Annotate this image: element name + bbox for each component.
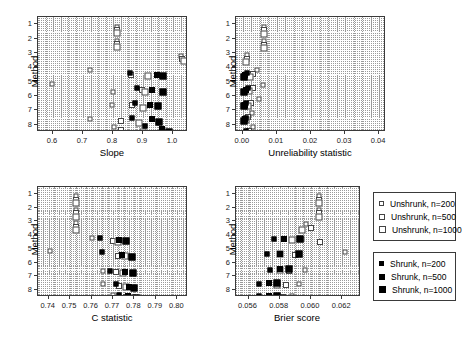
xaxis-label-slope: Slope [100,147,124,158]
yaxis-tickmark [232,289,235,290]
panel-c-statistic: 0.740.750.760.770.780.790.80 12345678 C … [37,186,187,296]
xaxis-tick-label: 0.74 [40,301,55,310]
data-point-unshrunk [141,89,148,96]
data-point-unshrunk [261,82,266,87]
data-point-unshrunk [87,67,92,72]
yaxis-label-unreliability-text: Method [227,42,238,102]
data-point-unshrunk [73,199,80,206]
xaxis-tickmark [172,131,173,134]
legend-item[interactable]: Shrunk, n=200 [379,257,449,270]
data-point-shrunk [286,265,293,272]
xaxis-label-unreliability: Unreliability statistic [268,147,351,158]
xaxis-tick-label: 0.00 [235,136,250,145]
data-point-unshrunk [315,213,322,220]
data-point-shrunk [129,254,136,261]
xaxis-tick-label: 0.01 [269,136,284,145]
yaxis-tickmark [34,275,37,276]
xaxis-tick-label: 0.060 [301,301,320,310]
xaxis-tickmark [279,296,280,299]
yaxis-tick-label: 1 [217,19,230,28]
panel-slope: 0.60.70.80.91.0 12345678 Slope Method [37,16,187,131]
xaxis-tick-label: 0.78 [126,301,141,310]
panel-unreliability: 0.000.010.020.030.04 12345678 Unreliabil… [235,16,385,131]
yaxis-tickmark [232,275,235,276]
data-point-unshrunk [180,58,187,65]
xaxis-tickmark [142,131,143,134]
data-point-shrunk [160,72,167,79]
data-point-unshrunk [289,237,296,244]
yaxis-tickmark [34,207,37,208]
yaxis-tickmark [232,109,235,110]
data-point-unshrunk [315,199,322,206]
data-point-shrunk [257,282,262,287]
data-point-unshrunk [87,117,92,122]
data-point-shrunk [125,293,131,296]
xaxis-tickmark [341,296,342,299]
data-point-unshrunk [283,282,289,288]
legend-item[interactable]: Shrunk, n=500 [379,270,449,283]
legend-item[interactable]: Unshrunk, n=200 [379,197,449,210]
xaxis-tick-label: 0.02 [303,136,318,145]
legend-item[interactable]: Unshrunk, n=500 [379,210,449,223]
xaxis-tickmark [133,296,134,299]
yaxis-tickmark [34,109,37,110]
data-point-unshrunk [243,58,250,65]
data-point-unshrunk [100,268,105,273]
legend-item-label: Shrunk, n=1000 [392,285,452,295]
xaxis-tick-label: 0.04 [371,136,386,145]
data-point-shrunk [155,118,162,125]
legend-item-label: Unshrunk, n=500 [391,212,456,222]
yaxis-label-c-statistic: Method [4,234,64,245]
yaxis-tick-label: 7 [19,105,32,114]
data-point-shrunk [160,89,167,96]
yaxis-tickmark [232,207,235,208]
data-point-unshrunk [260,45,267,52]
data-point-shrunk [277,251,283,257]
xaxis-label-brier-score: Brier score [274,312,320,323]
data-point-shrunk [114,282,119,287]
yaxis-tickmark [232,193,235,194]
data-point-shrunk [273,279,280,286]
yaxis-label-unreliability: Method [202,66,262,77]
legend-unshrunk: Unshrunk, n=200Unshrunk, n=500Unshrunk, … [373,192,456,241]
data-point-unshrunk [113,44,120,51]
data-point-unshrunk [73,213,80,220]
data-point-unshrunk [302,267,307,272]
data-point-shrunk [265,251,270,256]
data-point-shrunk [257,294,262,296]
data-point-shrunk [122,269,128,275]
data-point-shrunk [119,252,125,258]
data-point-shrunk [268,267,273,272]
data-point-unshrunk [140,129,147,132]
legend-item[interactable]: Shrunk, n=1000 [379,283,449,296]
yaxis-tick-label: 7 [217,271,230,280]
yaxis-label-c-statistic-text: Method [29,210,40,270]
data-point-unshrunk [296,282,301,287]
data-point-unshrunk [113,269,119,275]
xaxis-tickmark [112,131,113,134]
xaxis-tickmark [48,296,49,299]
filled-square-small-icon [379,261,384,266]
data-point-shrunk [240,103,247,110]
data-point-unshrunk [109,102,114,107]
xaxis-tick-label: 0.76 [83,301,98,310]
xaxis-tick-label: 0.80 [169,301,184,310]
xaxis-tickmark [112,296,113,299]
xaxis-tick-label: 0.062 [332,301,351,310]
yaxis-tickmark [34,193,37,194]
yaxis-tickmark [232,38,235,39]
open-square-large-icon [379,226,386,233]
data-point-unshrunk [308,225,314,231]
yaxis-tick-label: 8 [19,285,32,294]
data-point-shrunk [266,293,272,296]
legend-item[interactable]: Unshrunk, n=1000 [379,223,449,236]
xaxis-tickmark [91,296,92,299]
data-point-unshrunk [113,30,120,37]
data-point-unshrunk [89,235,94,240]
data-point-shrunk [135,86,140,91]
xaxis-tickmark [310,296,311,299]
data-point-shrunk [98,236,103,241]
legend-item-label: Shrunk, n=200 [390,259,446,269]
filled-square-large-icon [379,286,386,293]
